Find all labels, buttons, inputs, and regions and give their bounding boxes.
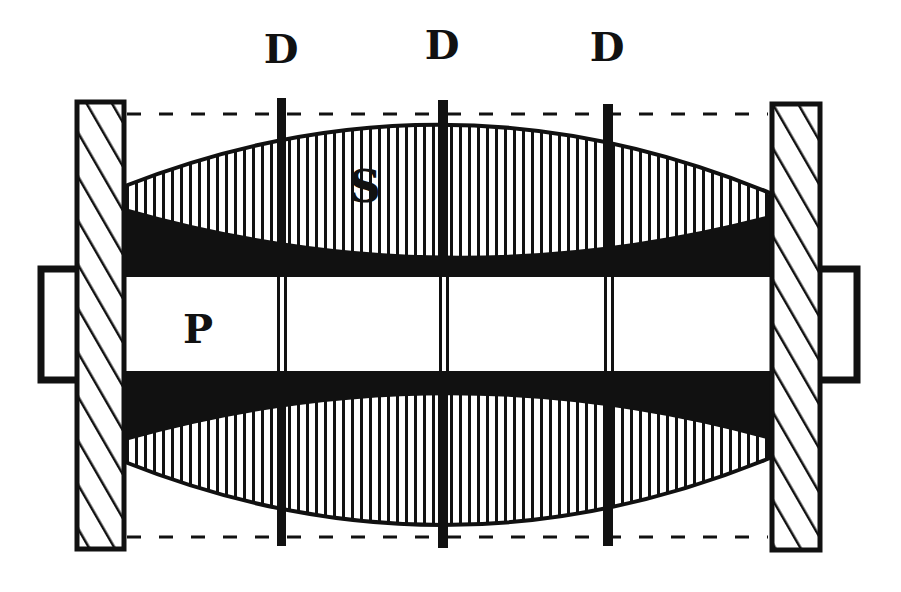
- right-end-plate: [772, 104, 820, 550]
- left-end-plate: [77, 102, 124, 549]
- winding-label-s: S: [349, 161, 381, 212]
- diagram-canvas: D D D S P: [0, 0, 901, 592]
- rod-label-2: D: [425, 21, 460, 68]
- core-label-p: P: [183, 305, 213, 352]
- rod-label-1: D: [264, 25, 299, 72]
- rod-label-3: D: [590, 23, 625, 70]
